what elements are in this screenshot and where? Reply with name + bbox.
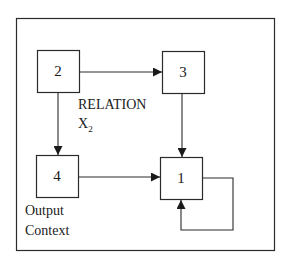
relation-variable-subscript: 2 <box>88 124 93 134</box>
relation-variable: X2 <box>78 116 93 137</box>
node-label-1: 1 <box>160 157 202 199</box>
relation-label-line1: RELATION <box>78 97 146 112</box>
output-context-label: Output Context <box>25 201 69 241</box>
relation-label: RELATION <box>78 97 146 112</box>
output-context-line1: Output <box>25 201 69 221</box>
node-label-4: 4 <box>36 155 78 197</box>
relation-variable-x: X <box>78 116 88 131</box>
output-context-line2: Context <box>25 221 69 241</box>
node-label-2: 2 <box>37 50 79 92</box>
node-label-3: 3 <box>162 51 204 93</box>
